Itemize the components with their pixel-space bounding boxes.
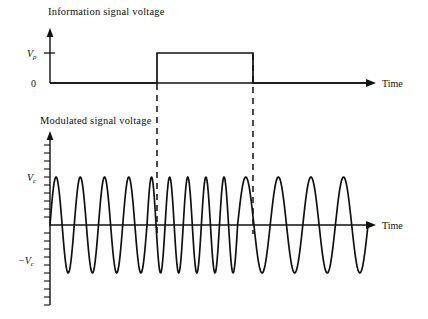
information-pulse-waveform: [50, 53, 368, 83]
modulated-vc-label: Vc: [27, 172, 37, 185]
modulated-y-axis-arrow-icon: [47, 131, 54, 140]
figure-svg: Information signal voltage Time Vp 0 Mod…: [0, 0, 428, 319]
fm-modulation-figure: Information signal voltage Time Vp 0 Mod…: [0, 0, 428, 319]
modulated-signal-title: Modulated signal voltage: [40, 115, 152, 126]
information-vp-label-sub: p: [32, 53, 37, 61]
information-time-label: Time: [382, 78, 403, 89]
modulated-time-label: Time: [382, 220, 403, 231]
panel-modulated-signal: Modulated signal voltage: [18, 115, 403, 305]
information-vp-label: Vp: [27, 48, 37, 61]
modulated-y-axis-ticks: [44, 145, 50, 305]
modulated-vc-label-sub: c: [33, 177, 37, 185]
modulated-neg-vc-label: −Vc: [18, 255, 35, 268]
panel-information-signal: Information signal voltage Time Vp 0: [27, 6, 403, 89]
information-signal-title: Information signal voltage: [48, 6, 165, 17]
pulse-edge-guides: [157, 54, 253, 234]
information-y-axis-arrow-icon: [47, 28, 54, 37]
modulated-neg-vc-label-sub: c: [31, 260, 35, 268]
information-zero-label: 0: [31, 78, 36, 89]
